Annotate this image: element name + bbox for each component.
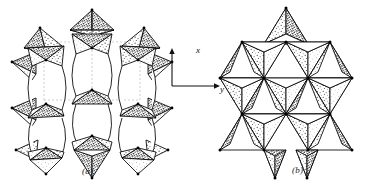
- structure-panel-a: [2, 0, 182, 188]
- axis-x-arrowhead: [169, 48, 174, 54]
- panel-a-column-1: [28, 46, 66, 174]
- ring-wall: [108, 54, 112, 96]
- tetrahedron: [122, 158, 154, 174]
- panel-a-column-3: [118, 46, 156, 174]
- axis-label-x: x: [196, 45, 200, 55]
- axis-label-y: y: [220, 84, 224, 94]
- tetrahedron: [30, 158, 62, 174]
- ring-wall: [72, 54, 76, 96]
- ring-wall: [118, 66, 122, 110]
- panel-b-row-1: [220, 42, 352, 78]
- panel-b-row-0: [264, 8, 308, 44]
- caption-panel-b: (b): [292, 165, 303, 175]
- axis-indicator-drawing: [166, 46, 228, 108]
- panel-b-row-2: [220, 78, 352, 114]
- panel-b-row-3: [220, 114, 352, 150]
- panel-b-row-4: [264, 150, 318, 178]
- caption-panel-a: (a): [82, 166, 93, 176]
- panel-a-left-spikes: [12, 52, 38, 160]
- ring-wall: [72, 104, 78, 146]
- panel-b-framework: [219, 7, 354, 180]
- panel-a-drawing: [2, 0, 182, 188]
- figure-root: x y (a) (b): [0, 0, 388, 188]
- ring-wall: [106, 104, 112, 146]
- panel-a-framework: [11, 9, 174, 180]
- axis-indicator: [166, 46, 228, 108]
- tetrahedron: [92, 150, 110, 178]
- ring-wall: [62, 66, 66, 110]
